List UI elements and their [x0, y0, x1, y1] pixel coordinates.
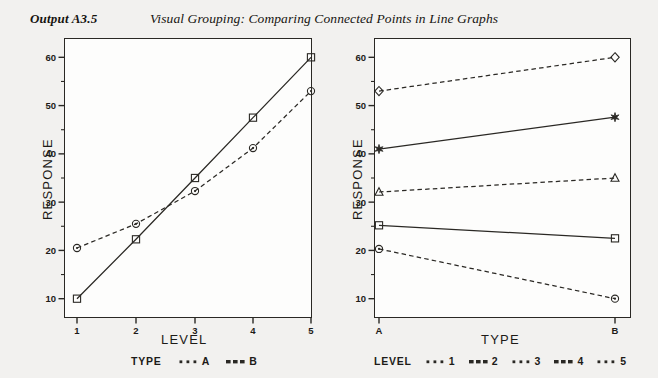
legend-item-4[interactable]: 4	[553, 355, 583, 367]
y-axis-tick-label: 20	[355, 245, 366, 256]
legend-item-label: 3	[535, 355, 541, 367]
page-root: Output A3.5 Visual Grouping: Comparing C…	[0, 0, 658, 378]
x-axis-tick-label: A	[376, 325, 383, 336]
legend-item-label: 5	[620, 355, 626, 367]
legend-item-label: 1	[449, 355, 455, 367]
legend-swatch-star	[553, 357, 575, 366]
legend-item-2[interactable]: 2	[468, 355, 498, 367]
legend-item-5[interactable]: 5	[596, 355, 626, 367]
series-line-2	[379, 225, 615, 238]
legend-item-label: 2	[492, 355, 498, 367]
x-axis-tick-label: B	[612, 325, 619, 336]
series-line-4	[379, 117, 615, 149]
y-axis-tick-label: 60	[355, 52, 366, 63]
legend-swatch-circle	[425, 357, 447, 366]
legend-title-right: LEVEL	[374, 355, 412, 367]
series-line-3	[379, 178, 615, 192]
line-chart-right: 102030405060AB	[0, 0, 658, 378]
y-axis-tick-label: 50	[355, 100, 366, 111]
x-axis-title-right: TYPE	[481, 332, 520, 347]
data-point-3	[611, 174, 619, 182]
legend-swatch-diamond	[596, 357, 618, 366]
legend-item-1[interactable]: 1	[425, 355, 455, 367]
y-axis-title-right: RESPONSE	[350, 138, 365, 220]
legend-item-3[interactable]: 3	[511, 355, 541, 367]
legend-swatch-square	[468, 357, 490, 366]
series-line-5	[379, 57, 615, 91]
legend-swatch-triangle	[511, 357, 533, 366]
legend-right: LEVEL 12345	[374, 355, 626, 367]
series-line-1	[379, 249, 615, 299]
legend-item-label: 4	[577, 355, 583, 367]
y-axis-tick-label: 10	[355, 293, 366, 304]
